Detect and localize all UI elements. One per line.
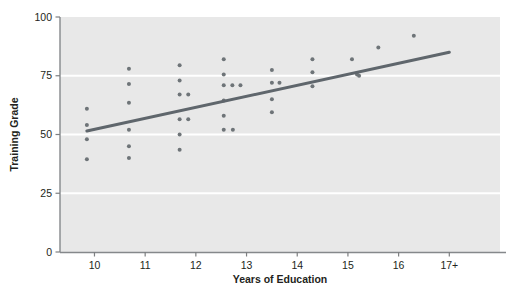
chart-canvas: 0255075100 1011121314151617+ Years of Ed…	[0, 0, 513, 291]
scatter-point	[222, 128, 226, 132]
scatter-point	[376, 46, 380, 50]
x-tick-label: 12	[190, 259, 202, 271]
y-tick-label: 100	[34, 11, 52, 23]
scatter-point	[127, 101, 131, 105]
x-tick-label: 13	[241, 259, 253, 271]
scatter-point	[222, 114, 226, 118]
scatter-point	[270, 97, 274, 101]
x-tick-label: 11	[140, 259, 151, 271]
scatter-point	[127, 128, 131, 132]
y-tick-label: 25	[40, 187, 52, 199]
scatter-point	[238, 83, 242, 87]
scatter-point	[127, 67, 131, 71]
scatter-point	[310, 84, 314, 88]
scatter-point	[178, 117, 182, 121]
scatter-point	[178, 93, 182, 97]
scatter-point	[85, 137, 89, 141]
x-tick-label: 14	[291, 259, 303, 271]
scatter-point	[85, 157, 89, 161]
scatter-point	[230, 83, 234, 87]
scatter-point	[231, 128, 235, 132]
scatter-point	[270, 68, 274, 72]
scatter-plot-figure: 0255075100 1011121314151617+ Years of Ed…	[0, 0, 513, 291]
y-tick-label: 0	[46, 246, 52, 258]
scatter-point	[222, 57, 226, 61]
scatter-point	[357, 74, 361, 78]
x-tick-label: 15	[342, 259, 354, 271]
scatter-point	[127, 144, 131, 148]
scatter-point	[310, 70, 314, 74]
scatter-point	[85, 123, 89, 127]
scatter-point	[277, 81, 281, 85]
scatter-point	[222, 83, 226, 87]
scatter-point	[178, 78, 182, 82]
scatter-point	[178, 148, 182, 152]
y-axis-title: Training Grade	[8, 97, 20, 171]
scatter-point	[186, 117, 190, 121]
scatter-point	[178, 63, 182, 67]
scatter-point	[127, 82, 131, 86]
scatter-point	[85, 107, 89, 111]
x-tick-label: 16	[393, 259, 405, 271]
x-tick-label: 17+	[440, 259, 458, 271]
scatter-point	[412, 34, 416, 38]
scatter-point	[178, 133, 182, 137]
scatter-point	[127, 156, 131, 160]
scatter-point	[350, 57, 354, 61]
scatter-point	[270, 81, 274, 85]
scatter-point	[186, 93, 190, 97]
x-tick-label: 10	[89, 259, 101, 271]
scatter-point	[222, 73, 226, 77]
y-tick-label: 75	[40, 69, 52, 81]
scatter-point	[310, 57, 314, 61]
x-axis-title: Years of Education	[233, 273, 328, 285]
scatter-point	[270, 110, 274, 114]
y-tick-label: 50	[40, 128, 52, 140]
